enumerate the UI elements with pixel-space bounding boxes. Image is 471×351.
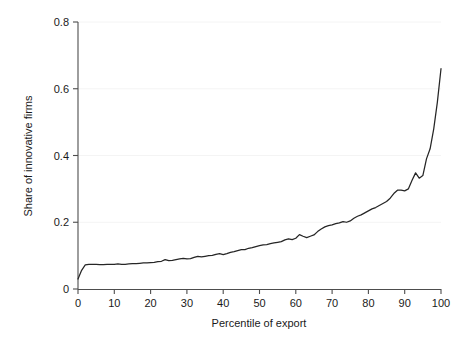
x-tick-label: 10 — [108, 297, 120, 309]
x-tick-label: 40 — [217, 297, 229, 309]
y-tick-label: 0.2 — [54, 216, 69, 228]
x-tick-label: 90 — [399, 297, 411, 309]
y-tick-label: 0.4 — [54, 150, 69, 162]
y-axis-title: Share of innovative firms — [22, 95, 34, 217]
x-tick-label: 20 — [144, 297, 156, 309]
x-tick-label: 50 — [253, 297, 265, 309]
y-tick-label: 0 — [63, 283, 69, 295]
line-chart: 00.20.40.60.8 0102030405060708090100 Sha… — [0, 0, 471, 351]
x-tick-label: 100 — [432, 297, 450, 309]
x-tick-label: 60 — [290, 297, 302, 309]
x-tick-label: 30 — [181, 297, 193, 309]
x-tick-label: 0 — [75, 297, 81, 309]
x-tick-label: 70 — [326, 297, 338, 309]
x-axis-title: Percentile of export — [212, 317, 307, 329]
x-tick-label: 80 — [362, 297, 374, 309]
y-tick-label: 0.6 — [54, 83, 69, 95]
chart-figure: 00.20.40.60.8 0102030405060708090100 Sha… — [0, 0, 471, 351]
y-tick-label: 0.8 — [54, 16, 69, 28]
